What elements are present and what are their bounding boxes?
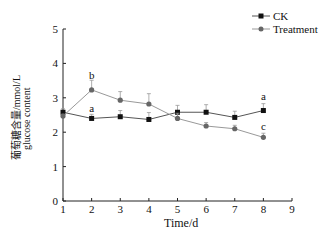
marker-square (146, 117, 151, 122)
legend-label: CK (273, 10, 288, 22)
y-axis-label: 葡萄糖含量/mmol/L glucose content (8, 60, 38, 200)
x-tick-label: 4 (146, 203, 152, 215)
line-chart-plot: 123456789012345baacCKTreatment (0, 0, 330, 243)
legend-marker-square (259, 14, 264, 19)
significance-letter: a (261, 90, 266, 102)
significance-letter: b (89, 69, 95, 81)
y-tick-label: 4 (53, 57, 59, 69)
x-tick-label: 5 (175, 203, 181, 215)
y-axis-label-en: glucose content (21, 88, 32, 150)
legend-marker-circle (259, 27, 264, 32)
marker-square (261, 108, 266, 113)
marker-circle (232, 126, 237, 131)
x-tick-label: 8 (261, 203, 267, 215)
x-tick-label: 3 (118, 203, 124, 215)
marker-square (204, 110, 209, 115)
chart-container: 123456789012345baacCKTreatment 葡萄糖含量/mmo… (0, 0, 330, 243)
x-tick-label: 7 (232, 203, 238, 215)
marker-square (232, 115, 237, 120)
x-tick-label: 2 (89, 203, 95, 215)
marker-circle (261, 135, 266, 140)
y-tick-label: 1 (53, 161, 59, 173)
marker-circle (118, 98, 123, 103)
y-tick-label: 5 (53, 23, 59, 35)
marker-circle (204, 123, 209, 128)
significance-letter: c (261, 120, 266, 132)
y-tick-label: 2 (53, 126, 59, 138)
marker-circle (146, 101, 151, 106)
legend-label: Treatment (273, 23, 318, 35)
x-tick-label: 1 (60, 203, 66, 215)
y-tick-label: 0 (53, 195, 59, 207)
marker-square (118, 114, 123, 119)
x-tick-label: 9 (289, 203, 295, 215)
significance-letter: a (89, 102, 94, 114)
marker-circle (175, 116, 180, 121)
x-axis-label: Time/d (164, 216, 198, 231)
marker-square (89, 116, 94, 121)
x-tick-label: 6 (203, 203, 209, 215)
y-tick-label: 3 (53, 92, 59, 104)
marker-circle (60, 113, 65, 118)
marker-circle (89, 87, 94, 92)
